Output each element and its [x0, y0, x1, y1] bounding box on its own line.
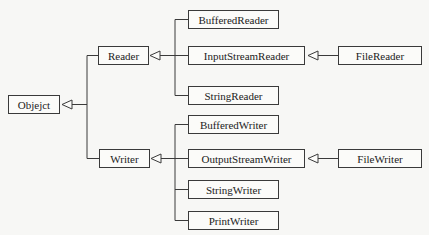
class-box-reader[interactable]: Reader	[98, 46, 149, 65]
class-label: FileReader	[356, 50, 404, 62]
class-label: PrintWriter	[209, 215, 259, 227]
class-label: StringWriter	[206, 184, 261, 196]
class-label: BufferedWriter	[200, 119, 267, 131]
inheritance-arrow-icon	[308, 51, 318, 60]
inheritance-arrow-icon	[308, 154, 318, 163]
class-label: InputStreamReader	[204, 50, 290, 62]
inheritance-arrow-icon	[151, 154, 161, 163]
class-box-filereader[interactable]: FileReader	[338, 46, 422, 65]
class-box-writer[interactable]: Writer	[99, 149, 150, 168]
class-box-printwriter[interactable]: PrintWriter	[188, 211, 279, 230]
class-box-outputstreamwriter[interactable]: OutputStreamWriter	[188, 149, 305, 168]
class-label: StringReader	[204, 90, 262, 102]
class-box-inputstreamreader[interactable]: InputStreamReader	[188, 46, 305, 65]
class-box-bufferedreader[interactable]: BufferedReader	[188, 10, 279, 29]
class-label: Writer	[110, 153, 138, 165]
class-box-filewriter[interactable]: FileWriter	[338, 149, 422, 168]
inheritance-arrow-icon	[150, 51, 160, 60]
class-label: FileWriter	[357, 153, 402, 165]
class-label: OutputStreamWriter	[202, 153, 292, 165]
class-box-bufferedwriter[interactable]: BufferedWriter	[188, 115, 279, 134]
inheritance-arrow-icon	[62, 100, 72, 109]
class-box-object[interactable]: Objejct	[8, 95, 60, 114]
class-label: Objejct	[18, 99, 50, 111]
class-box-stringwriter[interactable]: StringWriter	[188, 180, 279, 199]
class-label: BufferedReader	[198, 14, 268, 26]
class-label: Reader	[108, 50, 139, 62]
class-box-stringreader[interactable]: StringReader	[188, 86, 279, 105]
